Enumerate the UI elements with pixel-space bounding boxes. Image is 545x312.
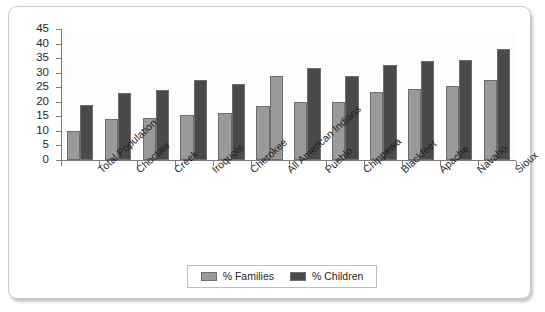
chart-frame: 454035302520151050 Total PopulationChoct… [8,6,531,299]
x-axis-tick-label: Navaho [475,167,482,175]
bar-group [446,29,473,160]
legend-item[interactable]: % Families [201,271,274,282]
y-axis-tick-label: 45 [36,23,49,35]
bar [67,131,80,160]
bar-group [332,29,359,160]
x-axis-tick-label: All American Indians [285,167,292,175]
legend-item[interactable]: % Children [290,271,363,282]
x-axis-tick-label: Iroquois [210,167,217,175]
y-axis-tick-label: 5 [43,140,49,152]
x-axis-labels: Total PopulationChoctawCreekIroquoisCher… [61,167,516,242]
bar-group [218,29,245,160]
y-axis-tick: 30 [56,73,61,74]
x-axis-tick-label: Creek [172,167,179,175]
x-axis-tick-label: Cherokee [248,167,255,175]
x-axis-tick-label: Apache [437,167,444,175]
legend-label: % Families [223,271,274,282]
x-axis-tick-label: Chippewa [361,167,368,175]
bar [194,80,207,160]
y-axis-tick-label: 25 [36,81,49,93]
legend-label: % Children [312,271,363,282]
y-axis-tick-label: 10 [36,125,49,137]
y-axis-tick-label: 40 [36,38,49,50]
y-axis-tick: 25 [56,87,61,88]
y-axis-tick: 5 [56,145,61,146]
y-axis-tick-label: 30 [36,67,49,79]
y-axis-tick: 20 [56,102,61,103]
x-axis-tick-label: Total Population [96,167,103,175]
y-axis-tick: 15 [56,116,61,117]
y-axis-tick-label: 15 [36,111,49,123]
x-axis-tick-label: Blackfeet [399,167,406,175]
legend-swatch-icon [290,272,306,281]
y-axis-line [61,29,62,160]
legend-swatch-icon [201,272,217,281]
bar-group [180,29,207,160]
chart-legend: % Families% Children [187,265,377,288]
y-axis-tick: 40 [56,44,61,45]
x-axis-tick-label: Pueblo [323,167,330,175]
x-axis-tick-label: Sioux [513,167,520,175]
bar-group [67,29,94,160]
y-axis-tick-label: 0 [43,154,49,166]
y-axis-tick: 45 [56,29,61,30]
bar-group [484,29,511,160]
y-axis-tick: 35 [56,58,61,59]
x-axis-tick-label: Choctaw [134,167,141,175]
y-axis-tick: 10 [56,131,61,132]
x-axis-tick [61,161,62,166]
bar [80,105,93,160]
y-axis-tick-label: 20 [36,96,49,108]
y-axis-tick-label: 35 [36,52,49,64]
